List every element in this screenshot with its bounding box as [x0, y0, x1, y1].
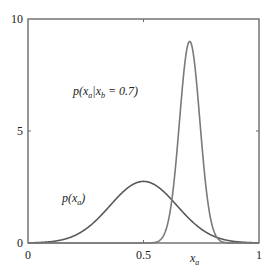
x-tick-label: 0.5	[136, 248, 151, 262]
chart: 0 5 10 0 0.5 1 xa p(xa|xb = 0.7) p(xa)	[0, 0, 275, 274]
x-axis-label: xa	[189, 251, 199, 267]
marginal-label: p(xa)	[61, 191, 85, 207]
y-tick-label: 0	[17, 236, 23, 250]
y-axis: 0 5 10	[11, 12, 259, 250]
conditional-curve	[28, 41, 259, 243]
x-axis: 0 0.5 1 xa	[25, 19, 262, 267]
plot-frame	[28, 19, 259, 243]
y-tick-label: 5	[17, 124, 23, 138]
conditional-label: p(xa|xb = 0.7)	[72, 84, 138, 100]
x-tick-label: 0	[25, 248, 31, 262]
x-tick-label: 1	[256, 248, 262, 262]
y-tick-label: 10	[11, 12, 23, 26]
